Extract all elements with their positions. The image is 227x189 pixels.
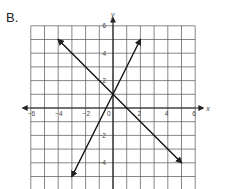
y-axis-label: y [110, 11, 115, 19]
y-tick-label: 4 [102, 50, 106, 57]
coordinate-plane: xy −6−4−20246642−2−4 [0, 0, 227, 189]
x-tick-label: −4 [55, 110, 63, 117]
x-tick-label: 0 [107, 110, 111, 117]
y-tick-label: 6 [102, 22, 106, 29]
x-tick-label: 4 [165, 110, 169, 117]
x-tick-label: −2 [83, 110, 91, 117]
x-tick-label: −6 [28, 110, 36, 117]
line-decreasing [58, 40, 181, 163]
axes: xy [23, 11, 210, 189]
x-tick-label: 6 [192, 110, 196, 117]
y-tick-label: −4 [99, 159, 107, 166]
y-tick-label: 2 [102, 77, 106, 84]
x-axis-label: x [205, 105, 210, 112]
x-tick-label: 2 [137, 110, 141, 117]
y-tick-label: −2 [99, 132, 107, 139]
